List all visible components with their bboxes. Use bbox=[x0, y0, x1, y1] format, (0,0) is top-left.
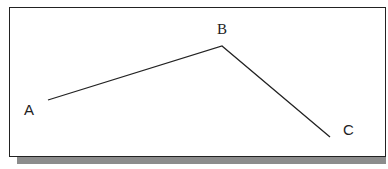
polyline-abc bbox=[0, 0, 388, 169]
point-label-a: A bbox=[24, 102, 34, 117]
point-label-b: B bbox=[217, 22, 227, 37]
point-label-c: C bbox=[343, 122, 354, 137]
